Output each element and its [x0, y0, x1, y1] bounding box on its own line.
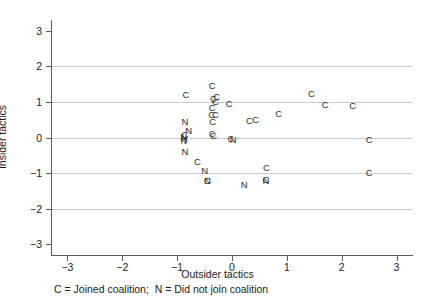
data-point-N-7: N: [204, 176, 211, 186]
data-point-N-6: N: [201, 166, 208, 176]
data-point-C-21: C: [366, 136, 373, 146]
y-tick-2: [46, 66, 51, 67]
data-point-C-1: C: [209, 81, 216, 91]
data-point-C-20: C: [349, 101, 356, 111]
scatter-plot-figure: −3−2−10123 −3−2−10123 CCCCCCCCCCCCCCCCCC…: [0, 0, 435, 297]
data-point-C-19: C: [322, 101, 329, 111]
plot-area: −3−2−10123 −3−2−10123 CCCCCCCCCCCCCCCCCC…: [51, 20, 413, 255]
data-point-C-8: C: [209, 117, 216, 127]
y-tick-label--2: −2: [30, 203, 42, 214]
y-tick--2: [46, 209, 51, 210]
y-tick-label-3: 3: [36, 25, 42, 36]
x-axis-title: Outsider tactics: [0, 268, 435, 280]
y-tick-0: [46, 138, 51, 139]
data-point-C-18: C: [308, 89, 315, 99]
y-axis-title: Insider tactics: [0, 105, 8, 169]
y-tick-label-0: 0: [36, 132, 42, 143]
y-tick-3: [46, 31, 51, 32]
y-tick-label--3: −3: [30, 239, 42, 250]
data-point-N-10: N: [263, 176, 270, 186]
gridline-y--2: [52, 209, 413, 210]
y-tick--1: [46, 173, 51, 174]
y-tick-label-1: 1: [36, 97, 42, 108]
data-point-N-5: N: [181, 148, 188, 158]
gridline-y-2: [52, 66, 413, 67]
y-tick-label-2: 2: [36, 61, 42, 72]
data-point-C-14: C: [252, 115, 259, 125]
gridline-y--1: [52, 173, 413, 174]
y-tick--3: [46, 244, 51, 245]
y-tick-label--1: −1: [30, 168, 42, 179]
data-point-C-22: C: [366, 168, 373, 178]
data-point-C-0: C: [182, 91, 189, 101]
data-point-C-23: C: [194, 158, 201, 168]
data-point-N-9: N: [241, 180, 248, 190]
y-tick-1: [46, 102, 51, 103]
legend-caption: C = Joined coalition; N = Did not join c…: [54, 283, 268, 295]
data-point-C-11: C: [226, 99, 233, 109]
data-point-C-17: C: [275, 109, 282, 119]
data-point-C-10: C: [210, 131, 217, 141]
data-point-N-4: N: [180, 136, 187, 146]
data-point-N-8: N: [230, 135, 237, 145]
data-point-C-16: C: [263, 163, 270, 173]
